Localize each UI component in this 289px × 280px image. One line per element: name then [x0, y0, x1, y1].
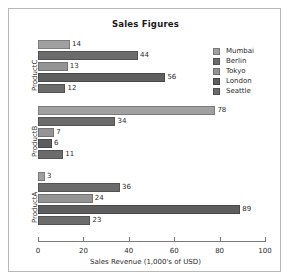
x-axis-tick: [220, 237, 221, 242]
bar-group-producta: 3 36 24 89 23: [38, 170, 265, 226]
x-axis-line: [38, 241, 265, 242]
y-axis-label-producta: ProductA: [31, 192, 39, 223]
x-axis-tick-label: 100: [253, 247, 277, 255]
chart-figure: Sales Figures 14 44 13 56: [0, 0, 289, 280]
x-axis-tick-label: 40: [117, 247, 141, 255]
bar-tokyo-producta[interactable]: [38, 194, 93, 203]
x-axis-tick-label: 20: [71, 247, 95, 255]
x-axis-tick-label: 60: [162, 247, 186, 255]
bar-tokyo-productc[interactable]: [38, 62, 68, 71]
legend-item-berlin[interactable]: Berlin: [213, 57, 275, 66]
legend-item-seattle[interactable]: Seattle: [213, 87, 275, 96]
bar-group-productb: 78 34 7 6 11: [38, 104, 265, 160]
bar-tokyo-productb[interactable]: [38, 128, 54, 137]
bar-seattle-productb[interactable]: [38, 150, 63, 159]
bar-value-label: 14: [72, 39, 81, 49]
legend: Mumbai Berlin Tokyo London Seattle: [213, 47, 275, 97]
bar-seattle-producta[interactable]: [38, 216, 90, 225]
bar-berlin-productc[interactable]: [38, 51, 138, 60]
bar-london-productc[interactable]: [38, 73, 165, 82]
bar-seattle-productc[interactable]: [38, 84, 65, 93]
x-axis-tick: [38, 237, 39, 242]
chart-title: Sales Figures: [9, 19, 282, 29]
bar-mumbai-productb[interactable]: [38, 106, 215, 115]
legend-swatch-icon: [213, 78, 220, 85]
x-axis-tick: [129, 237, 130, 242]
bar-value-label: 56: [167, 72, 176, 82]
bar-value-label: 3: [47, 171, 51, 181]
legend-item-tokyo[interactable]: Tokyo: [213, 67, 275, 76]
bar-value-label: 6: [54, 138, 58, 148]
bar-value-label: 11: [65, 149, 74, 159]
legend-swatch-icon: [213, 68, 220, 75]
bar-value-label: 89: [242, 204, 251, 214]
x-axis-tick-label: 0: [26, 247, 50, 255]
bar-value-label: 44: [140, 50, 149, 60]
bar-value-label: 36: [122, 182, 131, 192]
bar-value-label: 12: [68, 83, 77, 93]
legend-item-mumbai[interactable]: Mumbai: [213, 47, 275, 56]
x-axis-tick-label: 80: [208, 247, 232, 255]
bar-berlin-producta[interactable]: [38, 183, 120, 192]
y-axis-label-productc: ProductC: [31, 60, 39, 91]
bar-value-label: 34: [118, 116, 127, 126]
legend-swatch-icon: [213, 58, 220, 65]
chart-frame: Sales Figures 14 44 13 56: [8, 8, 281, 272]
legend-swatch-icon: [213, 88, 220, 95]
bar-value-label: 23: [93, 215, 102, 225]
bar-mumbai-producta[interactable]: [38, 172, 45, 181]
legend-swatch-icon: [213, 48, 220, 55]
legend-label: Berlin: [226, 57, 246, 66]
bar-berlin-productb[interactable]: [38, 117, 115, 126]
x-axis-title: Sales Revenue (1,000's of USD): [9, 258, 282, 266]
legend-item-london[interactable]: London: [213, 77, 275, 86]
bar-value-label: 13: [70, 61, 79, 71]
y-axis-label-productb: ProductB: [31, 126, 39, 157]
bar-value-label: 78: [217, 105, 226, 115]
legend-label: Tokyo: [226, 67, 246, 76]
legend-label: London: [226, 77, 252, 86]
x-axis-tick: [83, 237, 84, 242]
x-axis-tick: [174, 237, 175, 242]
bar-london-producta[interactable]: [38, 205, 240, 214]
bar-value-label: 24: [95, 193, 104, 203]
legend-label: Seattle: [226, 87, 251, 96]
bar-value-label: 7: [56, 127, 60, 137]
x-axis-tick: [265, 237, 266, 242]
legend-label: Mumbai: [226, 47, 254, 56]
bar-mumbai-productc[interactable]: [38, 40, 70, 49]
bar-london-productb[interactable]: [38, 139, 52, 148]
